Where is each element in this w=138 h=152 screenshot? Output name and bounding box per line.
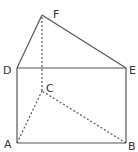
vertex-label-c: C <box>46 82 54 95</box>
vertex-label-d: D <box>3 64 11 77</box>
vertex-label-b: B <box>128 140 136 152</box>
edge-bc-hidden <box>42 91 126 143</box>
vertex-label-f: F <box>53 8 59 21</box>
edge-ef <box>42 15 126 68</box>
edge-df <box>17 15 42 68</box>
edge-ac-hidden <box>17 91 42 143</box>
prism-diagram: F D E C A B <box>0 0 138 152</box>
vertex-label-a: A <box>4 138 12 151</box>
vertex-label-e: E <box>129 64 136 77</box>
